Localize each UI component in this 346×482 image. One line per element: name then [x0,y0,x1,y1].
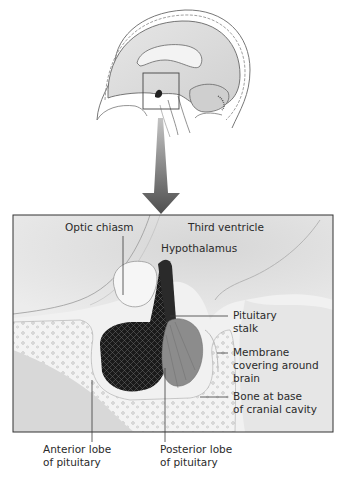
label-line: Anterior lobe [43,443,111,456]
label-membrane: Membrane covering around brain [233,346,319,385]
label-line: covering around [233,359,319,372]
label-line: of pituitary [160,456,232,469]
label-line: Posterior lobe [160,443,232,456]
label-line: Membrane [233,346,319,359]
label-line: stalk [233,322,277,335]
label-line: Pituitary [233,309,277,322]
label-hypothalamus: Hypothalamus [161,242,237,255]
label-line: brain [233,372,319,385]
label-pituitary-stalk: Pituitary stalk [233,309,277,335]
label-third-ventricle: Third ventricle [188,221,264,234]
label-optic-chiasm: Optic chiasm [65,221,134,234]
label-bone: Bone at base of cranial cavity [233,390,317,416]
label-line: Bone at base [233,390,317,403]
label-line: of pituitary [43,456,111,469]
zoom-arrow-icon [142,118,180,214]
pituitary-diagram: Optic chiasm Third ventricle Hypothalamu… [0,0,346,482]
head-overview [97,10,250,137]
label-anterior-lobe: Anterior lobe of pituitary [43,443,111,469]
label-line: of cranial cavity [233,403,317,416]
label-posterior-lobe: Posterior lobe of pituitary [160,443,232,469]
